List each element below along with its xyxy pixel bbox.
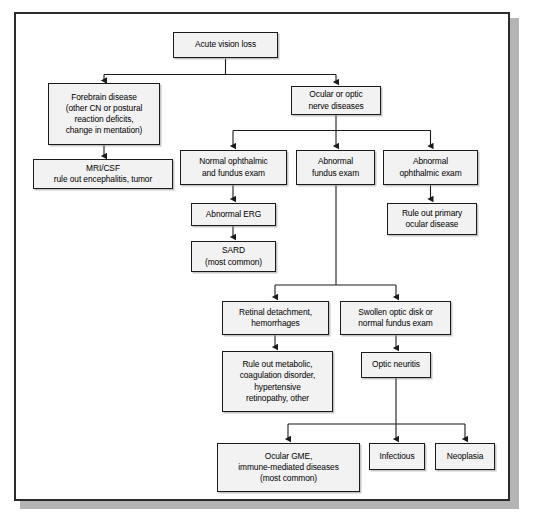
node-normal-ophthalmic-fundus-exam[interactable]: Normal ophthalmic and fundus exam <box>180 150 287 185</box>
node-ocular-optic-nerve-diseases[interactable]: Ocular or optic nerve diseases <box>291 86 381 115</box>
node-abnormal-fundus-exam[interactable]: Abnormal fundus exam <box>296 150 375 185</box>
figure-screenshot: Acute vision loss Forebrain disease (oth… <box>0 0 533 527</box>
node-retinal-detachment-hemorrhages[interactable]: Retinal detachment, hemorrhages <box>222 301 329 335</box>
node-rule-out-primary-ocular-disease[interactable]: Rule out primary ocular disease <box>387 203 477 235</box>
node-abnormal-ophthalmic-exam[interactable]: Abnormal ophthalmic exam <box>383 150 478 185</box>
node-infectious[interactable]: Infectious <box>369 443 425 470</box>
node-rule-out-metabolic[interactable]: Rule out metabolic, coagulation disorder… <box>222 351 333 412</box>
node-optic-neuritis[interactable]: Optic neuritis <box>361 352 431 378</box>
node-neoplasia[interactable]: Neoplasia <box>435 443 495 470</box>
node-swollen-optic-disk[interactable]: Swollen optic disk or normal fundus exam <box>340 301 451 335</box>
node-abnormal-erg[interactable]: Abnormal ERG <box>191 203 276 226</box>
node-mri-csf[interactable]: MRI/CSF rule out encephalitis, tumor <box>33 159 173 189</box>
node-acute-vision-loss[interactable]: Acute vision loss <box>173 32 278 58</box>
node-ocular-gme[interactable]: Ocular GME, immune-mediated diseases (mo… <box>217 443 360 492</box>
node-sard[interactable]: SARD (most common) <box>191 241 276 272</box>
node-forebrain-disease[interactable]: Forebrain disease (other CN or postural … <box>48 83 160 145</box>
